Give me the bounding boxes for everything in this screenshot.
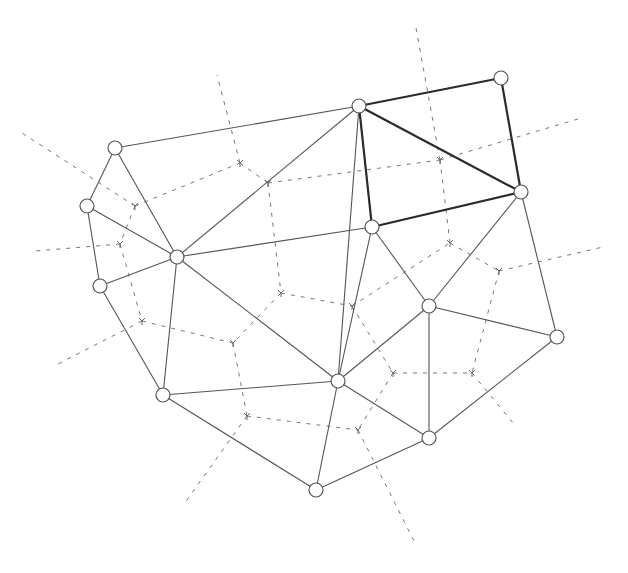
site-node	[514, 185, 528, 199]
voronoi-edge	[35, 244, 120, 251]
voronoi-vertex-mark	[230, 340, 236, 347]
delaunay-edge	[100, 286, 163, 395]
delaunay-edge	[316, 438, 429, 490]
delaunay-edge	[429, 192, 521, 306]
voronoi-vertex-mark	[355, 427, 361, 434]
site-node	[331, 374, 345, 388]
highlighted-edge	[359, 78, 501, 106]
voronoi-edge	[135, 163, 240, 206]
delaunay-edge	[338, 381, 429, 438]
delaunay-edge	[429, 306, 557, 337]
highlighted-edges	[359, 78, 521, 227]
site-node	[170, 250, 184, 264]
delaunay-edge	[177, 257, 338, 381]
delaunay-edge	[338, 106, 359, 381]
highlighted-edge	[372, 192, 521, 227]
site-node	[352, 99, 366, 113]
voronoi-edge	[472, 373, 513, 423]
delaunay-edge	[115, 106, 359, 148]
voronoi-vertices	[117, 157, 502, 434]
delaunay-edge	[163, 395, 316, 490]
voronoi-edge	[499, 247, 603, 271]
site-node	[422, 431, 436, 445]
voronoi-edge	[142, 321, 233, 343]
delaunay-edge	[163, 257, 177, 395]
voronoi-edge	[247, 416, 358, 430]
voronoi-edge	[358, 373, 393, 430]
delaunay-edge	[316, 381, 338, 490]
voronoi-edge	[281, 293, 352, 306]
voronoi-edges	[22, 28, 603, 541]
site-node	[93, 279, 107, 293]
voronoi-edge	[358, 430, 414, 541]
voronoi-edge	[54, 321, 142, 366]
voronoi-edge	[217, 75, 240, 163]
highlighted-edge	[359, 106, 372, 227]
triangulation-edges	[87, 106, 557, 490]
delaunay-edge	[87, 206, 177, 257]
delaunay-edge	[163, 381, 338, 395]
site-nodes	[80, 71, 564, 497]
voronoi-vertex-mark	[496, 268, 502, 275]
site-node	[156, 388, 170, 402]
site-node	[494, 71, 508, 85]
site-node	[108, 141, 122, 155]
delaunay-edge	[100, 257, 177, 286]
delaunay-edge	[521, 192, 557, 337]
delaunay-edge	[429, 337, 557, 438]
highlighted-edge	[501, 78, 521, 192]
voronoi-edge	[184, 416, 247, 504]
highlighted-edge	[359, 106, 521, 192]
voronoi-edge	[120, 244, 142, 321]
site-node	[309, 483, 323, 497]
voronoi-vertex-mark	[132, 203, 138, 210]
delaunay-edge	[115, 148, 177, 257]
delaunay-edge	[87, 148, 115, 206]
voronoi-edge	[440, 160, 450, 243]
delaunay-edge	[177, 227, 372, 257]
voronoi-edge	[352, 306, 393, 373]
site-node	[365, 220, 379, 234]
site-node	[422, 299, 436, 313]
site-node	[80, 199, 94, 213]
voronoi-edge	[120, 206, 135, 244]
delaunay-edge	[372, 227, 429, 306]
voronoi-edge	[450, 243, 499, 271]
voronoi-edge	[240, 163, 268, 183]
voronoi-edge	[233, 343, 247, 416]
delaunay-edge	[177, 106, 359, 257]
site-node	[550, 330, 564, 344]
voronoi-edge	[268, 183, 281, 293]
delaunay-voronoi-diagram	[0, 0, 628, 573]
